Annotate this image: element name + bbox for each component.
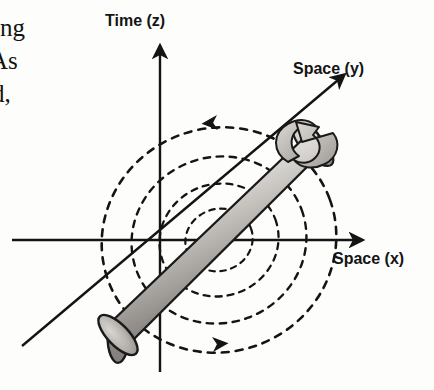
spacetime-cylinder-figure [0, 0, 434, 390]
coordinate-axes [12, 46, 362, 372]
ring-arrow-bottom-right [212, 336, 229, 352]
axis-space-y [22, 75, 344, 346]
